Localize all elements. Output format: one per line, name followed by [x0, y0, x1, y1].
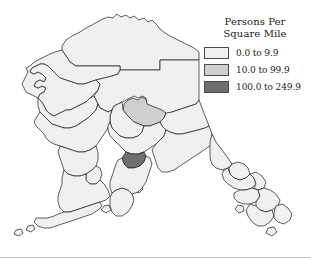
legend-title-line-1: Persons Per: [202, 16, 308, 28]
legend-swatch-high-icon: [204, 81, 229, 93]
legend-item-high[interactable]: 100.0 to 249.9: [204, 79, 308, 95]
legend-title-line-2: Square Mile: [202, 28, 308, 40]
region-aleutian-islet-2[interactable]: [14, 229, 23, 236]
legend-items: 0.0 to 9.9 10.0 to 99.9 100.0 to 249.9: [196, 45, 308, 95]
legend-title: Persons Per Square Mile: [196, 16, 308, 39]
legend-swatch-low-icon: [204, 47, 229, 59]
region-cook-inlet-islet[interactable]: [101, 205, 111, 213]
map-legend: Persons Per Square Mile 0.0 to 9.9 10.0 …: [196, 16, 308, 96]
legend-item-mid[interactable]: 10.0 to 99.9: [204, 62, 308, 78]
region-ketchikan-gateway[interactable]: [274, 204, 292, 224]
map-screenshot: Persons Per Square Mile 0.0 to 9.9 10.0 …: [0, 0, 311, 258]
legend-swatch-mid-icon: [204, 64, 229, 76]
region-aleutian-islet-1[interactable]: [26, 225, 35, 232]
legend-label-high: 100.0 to 249.9: [236, 82, 301, 92]
region-yakutat[interactable]: [210, 134, 232, 170]
region-se-islet-1[interactable]: [266, 227, 277, 236]
region-se-islet-2[interactable]: [235, 205, 244, 213]
legend-label-low: 0.0 to 9.9: [236, 48, 278, 58]
legend-item-low[interactable]: 0.0 to 9.9: [204, 45, 308, 61]
legend-label-mid: 10.0 to 99.9: [236, 65, 290, 75]
